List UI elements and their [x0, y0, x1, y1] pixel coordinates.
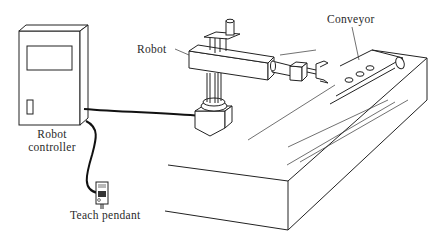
teach-pendant — [96, 182, 108, 209]
robot-leader-line — [175, 49, 189, 55]
conveyor-label: Conveyor — [327, 13, 375, 26]
robot-workcell-diagram: Robot Conveyor Robot controller Teach pe… — [0, 0, 445, 244]
robot-label: Robot — [137, 43, 167, 56]
teach-pendant-label: Teach pendant — [70, 209, 140, 222]
conveyor-belt — [330, 50, 406, 104]
conveyor-leader-line — [352, 27, 359, 60]
robot-controller-label-line2: controller — [20, 141, 84, 154]
robot-controller-label-line1: Robot — [27, 128, 77, 141]
robot-controller-cabinet — [19, 25, 88, 125]
controller-to-robot-cable — [84, 109, 200, 116]
robot-arm — [189, 19, 328, 136]
